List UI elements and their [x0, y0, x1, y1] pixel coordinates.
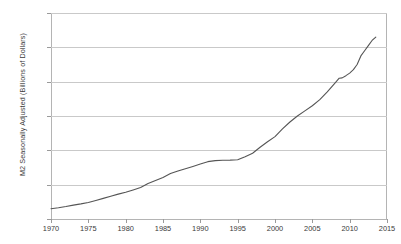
x-tick-mark-2010: [350, 219, 351, 223]
series-line-m2: [51, 13, 387, 219]
gridline-y-0: [51, 219, 387, 220]
plot-area: 02,0004,0006,0008,00010,00012,000 197019…: [51, 13, 387, 219]
m2-money-supply-chart: M2 Seasonally Adjusted (Billions of Doll…: [0, 0, 401, 244]
x-tick-mark-1970: [51, 219, 52, 223]
x-tick-label-1980: 1980: [106, 224, 146, 233]
x-tick-mark-1990: [200, 219, 201, 223]
x-tick-label-2010: 2010: [330, 224, 370, 233]
x-tick-label-1970: 1970: [31, 224, 71, 233]
y-axis-title: M2 Seasonally Adjusted (Billions of Doll…: [18, 0, 27, 212]
x-tick-label-1975: 1975: [68, 224, 108, 233]
x-tick-label-2015: 2015: [367, 224, 401, 233]
x-tick-mark-2005: [312, 219, 313, 223]
x-tick-mark-1980: [126, 219, 127, 223]
x-tick-label-1995: 1995: [218, 224, 258, 233]
x-tick-label-1985: 1985: [143, 224, 183, 233]
x-tick-mark-1985: [163, 219, 164, 223]
x-tick-label-2000: 2000: [255, 224, 295, 233]
x-tick-mark-1975: [88, 219, 89, 223]
x-tick-mark-1995: [238, 219, 239, 223]
x-tick-mark-2015: [387, 219, 388, 223]
x-tick-mark-2000: [275, 219, 276, 223]
x-tick-label-1990: 1990: [180, 224, 220, 233]
x-tick-label-2005: 2005: [292, 224, 332, 233]
